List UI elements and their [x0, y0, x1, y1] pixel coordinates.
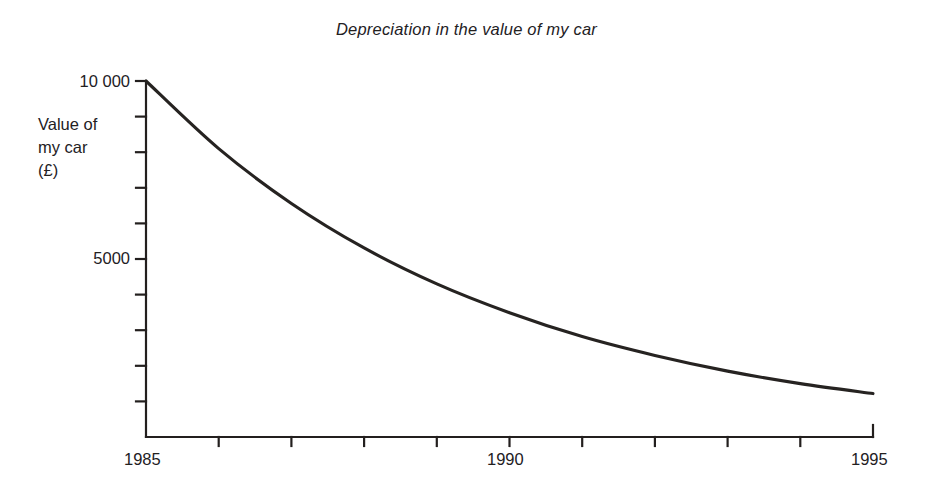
plot-area	[0, 0, 933, 492]
y-axis-ticks	[136, 81, 146, 401]
depreciation-curve	[146, 81, 873, 394]
x-axis-group	[146, 425, 873, 446]
chart-page: Depreciation in the value of my car Valu…	[0, 0, 933, 492]
x-axis-ticks	[219, 437, 801, 446]
y-axis-group	[136, 81, 146, 437]
